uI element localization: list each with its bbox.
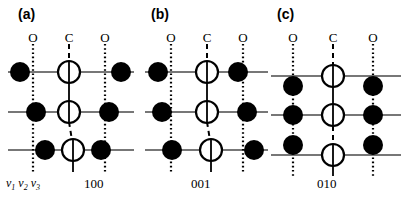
oxygen-atom [152, 102, 172, 122]
oxygen-atom [244, 140, 264, 160]
figure-canvas: (a) O C O v1 [0, 0, 403, 207]
mode-symbol-v2: v2 [18, 176, 27, 190]
panel-b-caption: 001 [191, 176, 211, 192]
mode-symbol-v1: v1 [6, 176, 15, 190]
panel-c: (c) O C O 010 [263, 0, 403, 207]
oxygen-atom [35, 140, 55, 160]
oxygen-atom [363, 76, 383, 96]
oxygen-atom [91, 140, 111, 160]
oxygen-atom [162, 140, 182, 160]
oxygen-atom [111, 62, 131, 82]
oxygen-atom [237, 102, 257, 122]
panel-c-caption: 010 [317, 176, 337, 192]
oxygen-atom [363, 135, 383, 155]
panel-b: (b) O C O 001 [133, 0, 268, 207]
oxygen-atom [363, 105, 383, 125]
oxygen-atom [283, 135, 303, 155]
oxygen-atom [26, 102, 46, 122]
oxygen-atom [283, 105, 303, 125]
oxygen-atom [148, 62, 168, 82]
mode-symbol-v3: v3 [31, 176, 40, 190]
oxygen-atom [283, 76, 303, 96]
panel-a: (a) O C O v1 [0, 0, 140, 207]
panel-a-caption: 100 [84, 176, 104, 192]
carbon-axis [207, 122, 210, 140]
oxygen-atom [99, 102, 119, 122]
oxygen-atom [228, 62, 248, 82]
mode-symbol-labels: v1 v2 v3 [6, 176, 40, 192]
oxygen-atom [10, 62, 30, 82]
carbon-axis [69, 122, 72, 140]
